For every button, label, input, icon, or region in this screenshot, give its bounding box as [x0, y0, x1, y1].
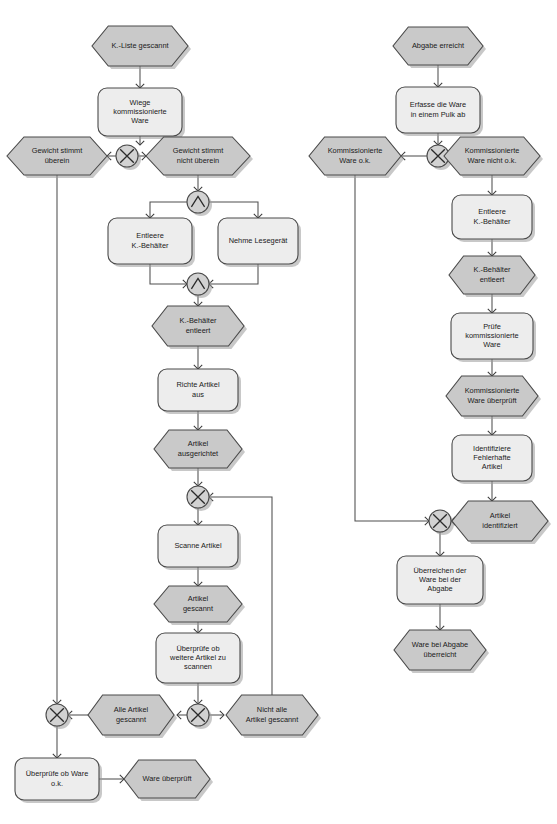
node-label: Scanne Artikel	[174, 541, 222, 550]
nodes-layer: K.-Liste gescanntWiegekommissionierteWar…	[7, 26, 551, 803]
event-node-e16[interactable]: Ware bei Abgabeüberreicht	[394, 630, 489, 673]
edge-f6-to-x3	[194, 683, 202, 704]
xor-connector-x1[interactable]	[116, 145, 141, 170]
event-node-e13[interactable]: K.-Behälterentleert	[449, 256, 538, 297]
node-label: Erfasse die Warein einem Pulk ab	[410, 100, 466, 118]
edge-e1-to-f1	[136, 66, 144, 88]
edge-x5-to-e11	[401, 152, 427, 160]
function-node-f6[interactable]: Überprüfe obweitere Artikel zuscannen	[156, 633, 243, 686]
edge-f2-to-a2	[150, 264, 187, 288]
event-node-e6[interactable]: Artikelgescannt	[154, 586, 245, 625]
event-node-e4[interactable]: K.-Behälterentleert	[152, 306, 247, 349]
node-label: Gewicht stimmtnicht überein	[173, 146, 224, 164]
edges-layer	[53, 65, 496, 783]
event-node-e10[interactable]: Abgabe erreicht	[393, 27, 486, 68]
function-node-f3[interactable]: Nehme Lesegerät	[218, 218, 301, 267]
function-node-f4[interactable]: Richte Artikelaus	[158, 369, 241, 414]
function-node-f9[interactable]: EntleereK.-Behälter	[452, 195, 535, 242]
epc-diagram-svg: K.-Liste gescanntWiegekommissionierteWar…	[0, 0, 557, 824]
node-label: EntleereK.-Behälter	[474, 207, 512, 225]
function-node-f12[interactable]: Überreichen derWare bei derAbgabe	[397, 556, 486, 607]
and-connector-a1[interactable]	[187, 191, 212, 216]
and-connector-a2[interactable]	[187, 273, 212, 298]
function-node-f10[interactable]: PrüfekommissionierteWare	[451, 313, 536, 362]
function-node-f11[interactable]: IdentifiziereFehlerhafteArtikel	[452, 435, 535, 484]
function-node-f5[interactable]: Scanne Artikel	[158, 525, 241, 570]
event-node-e9[interactable]: Ware überprüft	[124, 760, 213, 801]
edge-e4-to-f4	[194, 346, 202, 369]
node-label: EntleereK.-Behälter	[132, 231, 170, 249]
edge-a1-to-f2	[146, 202, 187, 218]
epc-diagram-canvas: K.-Liste gescanntWiegekommissionierteWar…	[0, 0, 557, 824]
edge-e11-to-x6	[355, 175, 429, 525]
xor-connector-x6[interactable]	[429, 510, 454, 535]
event-node-e12[interactable]: KommissionierteWare nicht o.k.	[444, 137, 543, 178]
event-node-e14[interactable]: KommissionierteWare überprüft	[446, 376, 541, 419]
function-node-f8[interactable]: Erfasse die Warein einem Pulk ab	[396, 87, 483, 136]
edge-a1-to-f3	[209, 202, 262, 218]
event-node-e8[interactable]: Nicht alleArtikel gescannt	[226, 695, 321, 738]
function-node-f1[interactable]: WiegekommissionierteWare	[98, 88, 185, 139]
function-node-f7[interactable]: Überprüfe ob Wareo.k.	[15, 758, 102, 803]
edge-e10-to-f8	[434, 65, 442, 87]
edge-x4-to-f7	[53, 726, 61, 758]
event-node-e15[interactable]: Artikelidentifiziert	[452, 501, 551, 544]
xor-connector-x4[interactable]	[46, 704, 71, 729]
event-node-e11[interactable]: KommissionierteWare o.k.	[309, 137, 404, 178]
event-node-e5[interactable]: Artikelausgerichtet	[154, 430, 245, 471]
node-label: Nehme Lesegerät	[229, 236, 288, 245]
xor-connector-x2[interactable]	[187, 486, 212, 511]
xor-connector-x3[interactable]	[187, 704, 212, 729]
node-label: K.-Liste gescannt	[111, 41, 168, 50]
event-node-e7[interactable]: Alle Artikelgescannt	[88, 695, 177, 738]
function-node-f2[interactable]: EntleereK.-Behälter	[108, 218, 195, 267]
node-label: Abgabe erreicht	[412, 41, 464, 50]
edge-e7-to-x4	[68, 711, 88, 719]
edge-f3-to-a2	[209, 264, 258, 288]
node-label: Alle Artikelgescannt	[114, 705, 149, 723]
event-node-e1[interactable]: K.-Liste gescannt	[92, 26, 191, 69]
edge-e2-to-x4	[53, 175, 61, 704]
edge-f12-to-e16	[436, 604, 444, 630]
edge-x6-to-f12	[436, 532, 444, 556]
event-node-e2[interactable]: Gewicht stimmtüberein	[7, 137, 110, 178]
node-label: KommissionierteWare überprüft	[465, 386, 520, 404]
event-node-e3[interactable]: Gewicht stimmtnicht überein	[146, 137, 253, 178]
edge-f7-to-e9	[99, 775, 124, 783]
node-label: Ware überprüft	[142, 774, 191, 783]
node-label: KommissionierteWare nicht o.k.	[465, 146, 520, 164]
edge-x3-to-e7	[177, 711, 187, 719]
